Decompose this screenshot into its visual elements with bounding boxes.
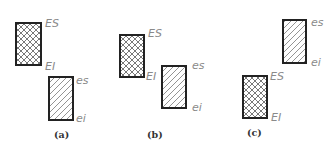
label-EI: EI	[146, 70, 156, 83]
label-es: es	[192, 59, 205, 72]
caption-a: (a)	[54, 129, 69, 140]
label-EI: EI	[271, 111, 281, 124]
label-ei: ei	[76, 112, 86, 125]
label-ei: ei	[311, 56, 321, 69]
label-ei: ei	[192, 101, 202, 114]
shaft-tolerance-zone	[162, 66, 186, 108]
label-ES: ES	[270, 70, 284, 83]
label-es: es	[76, 74, 89, 87]
tolerance-zone-diagram: ES EI es ei (a) ES EI es ei (b) es ei ES…	[0, 0, 335, 151]
shaft-tolerance-zone	[283, 20, 306, 63]
label-ES: ES	[148, 27, 162, 40]
hole-tolerance-zone	[120, 35, 144, 77]
label-es: es	[311, 16, 324, 29]
hole-tolerance-zone	[243, 76, 267, 118]
caption-c: (c)	[247, 127, 262, 138]
panel-b: ES EI es ei (b)	[120, 27, 205, 140]
hole-tolerance-zone	[16, 23, 41, 65]
panel-a: ES EI es ei (a)	[16, 17, 89, 140]
label-ES: ES	[45, 17, 59, 30]
panel-c: es ei ES EI (c)	[243, 16, 324, 138]
caption-b: (b)	[147, 129, 163, 140]
shaft-tolerance-zone	[49, 77, 73, 120]
label-EI: EI	[45, 60, 55, 73]
